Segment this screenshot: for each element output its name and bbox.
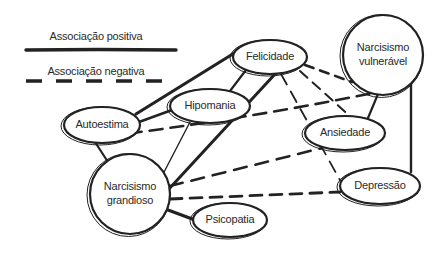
node-narcisismo-grandioso-label: grandioso xyxy=(107,194,154,206)
association-diagram: Associação positiva Associação negativa … xyxy=(0,0,447,261)
legend-negative-label: Associação negativa xyxy=(47,65,145,77)
node-autoestima: Autoestima xyxy=(61,107,140,145)
edge-negative-narcisismo-grandioso-to-depressao xyxy=(170,192,340,199)
node-narcisismo-vulneravel-label: vulnerável xyxy=(359,55,407,67)
node-ansiedade: Ansiedade xyxy=(302,116,385,152)
node-psicopatia-label: Psicopatia xyxy=(206,213,256,225)
legend: Associação positiva Associação negativa xyxy=(26,30,176,81)
node-felicidade-label: Felicidade xyxy=(246,50,294,62)
node-narcisismo-grandioso-label: Narcisismo xyxy=(104,180,156,192)
node-ansiedade-label: Ansiedade xyxy=(320,126,370,138)
node-autoestima-label: Autoestima xyxy=(75,118,129,130)
node-depressao-label: Depressão xyxy=(354,179,405,191)
node-felicidade: Felicidade xyxy=(230,40,307,76)
node-narcisismo-vulneravel: Narcisismovulnerável xyxy=(340,15,423,98)
edge-positive-hipomania-to-felicidade xyxy=(230,70,246,91)
node-hipomania-label: Hipomania xyxy=(185,99,237,111)
legend-positive-label: Associação positiva xyxy=(50,30,144,42)
edge-positive-hipomania-to-narcisismo-grandioso xyxy=(162,122,190,176)
node-hipomania: Hipomania xyxy=(167,89,250,125)
edge-negative-narcisismo-grandioso-to-ansiedade xyxy=(170,148,322,186)
edge-positive-autoestima-to-hipomania xyxy=(139,110,172,122)
edge-positive-narcisismo-grandioso-to-psicopatia xyxy=(168,210,195,220)
legend-positive-line xyxy=(26,50,176,51)
node-narcisismo-vulneravel-label: Narcisismo xyxy=(357,41,409,53)
node-narcisismo-grandioso: Narcisismograndioso xyxy=(87,154,170,237)
node-psicopatia: Psicopatia xyxy=(190,203,267,239)
node-depressao: Depressão xyxy=(337,168,420,206)
